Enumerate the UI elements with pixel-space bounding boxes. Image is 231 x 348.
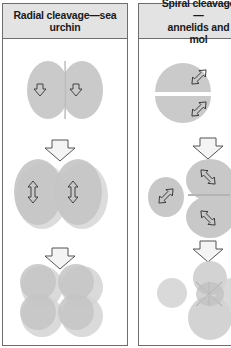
radial-stage-4cell bbox=[14, 159, 108, 229]
spiral-stage-2cell bbox=[155, 63, 211, 123]
spiral-stage-8cell bbox=[157, 261, 231, 340]
radial-stage-2cell bbox=[27, 61, 103, 119]
cleavage-illustration bbox=[0, 0, 231, 348]
spiral-stage-4cell bbox=[148, 159, 231, 238]
radial-stage-8cell bbox=[20, 264, 103, 337]
stage-transition-arrow-icon bbox=[45, 140, 75, 161]
stage-transition-arrow-icon bbox=[193, 241, 223, 262]
stage-transition-arrow-icon bbox=[193, 138, 223, 159]
